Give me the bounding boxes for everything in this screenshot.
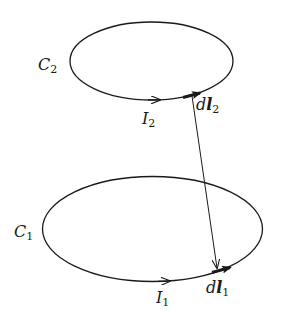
- label-dl2: dl2: [196, 95, 219, 116]
- label-c2: C2: [38, 55, 57, 76]
- separation-vector: [192, 96, 217, 268]
- line-element-dl1: [212, 268, 230, 273]
- label-c1: C1: [14, 222, 33, 243]
- loop-c1: [43, 177, 263, 282]
- label-i2: I2: [141, 109, 155, 130]
- loop-c2: [70, 22, 233, 100]
- diagram-canvas: C2 I2 dl2 C1 I1 dl1: [0, 0, 283, 326]
- label-dl1: dl1: [206, 278, 229, 299]
- label-i1: I1: [155, 288, 169, 309]
